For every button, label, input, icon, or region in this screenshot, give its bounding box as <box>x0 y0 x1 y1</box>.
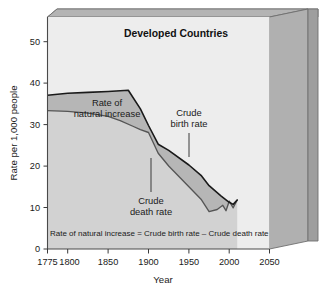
frame-right-bevel <box>270 9 309 249</box>
x-tick-label-1850: 1850 <box>98 257 118 267</box>
y-tick-label-10: 10 <box>30 203 40 213</box>
chart-figure: 0 10 20 30 40 50 Rate per 1,000 people 1… <box>0 0 327 300</box>
frame-top-face <box>48 9 309 17</box>
y-axis-title: Rate per 1,000 people <box>8 86 19 181</box>
annotation-death-rate-line1: Crude <box>138 195 164 206</box>
y-tick-label-20: 20 <box>30 161 40 171</box>
x-tick-label-1900: 1900 <box>138 257 158 267</box>
annotation-death-rate-line2: death rate <box>130 206 172 217</box>
x-tick-label-2050: 2050 <box>259 257 279 267</box>
y-tick-label-50: 50 <box>30 37 40 47</box>
x-tick-labels: 1775 1800 1850 1900 1950 2000 2050 <box>37 257 279 267</box>
annotation-birth-rate-line2: birth rate <box>171 118 208 129</box>
y-tick-label-40: 40 <box>30 78 40 88</box>
annotation-birth-rate-line1: Crude <box>176 107 202 118</box>
x-axis-title: Year <box>153 274 173 285</box>
x-tick-label-2000: 2000 <box>219 257 239 267</box>
y-tick-labels: 0 10 20 30 40 50 <box>30 37 40 254</box>
annotation-natural-increase-line1: Rate of <box>92 97 123 108</box>
y-axis-ticks <box>44 42 48 249</box>
y-tick-label-0: 0 <box>35 244 40 254</box>
x-tick-label-1950: 1950 <box>179 257 199 267</box>
x-tick-label-1800: 1800 <box>59 257 79 267</box>
frame-right-edge <box>308 9 318 241</box>
chart-title: Developed Countries <box>124 28 228 39</box>
annotation-natural-increase-line2: natural increase <box>74 108 141 119</box>
chart-footnote: Rate of natural increase = Crude birth r… <box>50 229 269 238</box>
x-tick-label-1775: 1775 <box>37 257 57 267</box>
developed-countries-chart: 0 10 20 30 40 50 Rate per 1,000 people 1… <box>0 0 327 300</box>
x-axis-ticks <box>48 249 270 254</box>
y-tick-label-30: 30 <box>30 120 40 130</box>
